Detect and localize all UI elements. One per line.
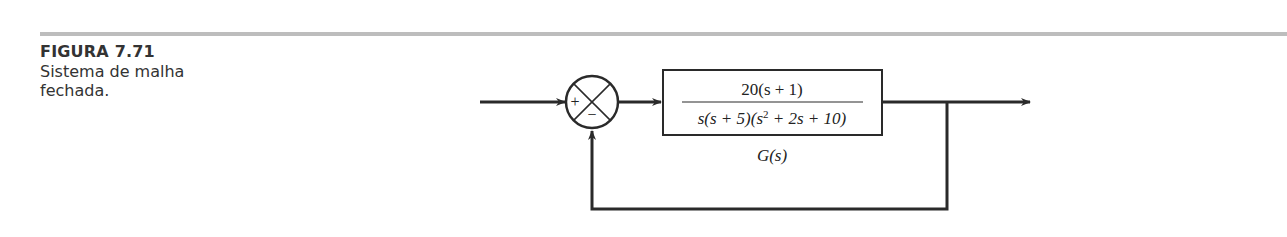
- summing-junction: + −: [566, 76, 618, 128]
- block-diagram: + − 20(s + 1) s(s + 5)(s2 + 2s + 10) G(s…: [0, 0, 1287, 237]
- plus-sign: +: [570, 93, 579, 110]
- block-label: G(s): [757, 146, 788, 165]
- denominator: s(s + 5)(s2 + 2s + 10): [698, 108, 847, 128]
- minus-sign: −: [587, 106, 596, 123]
- numerator: 20(s + 1): [741, 80, 803, 99]
- transfer-function-block: 20(s + 1) s(s + 5)(s2 + 2s + 10) G(s): [663, 70, 882, 165]
